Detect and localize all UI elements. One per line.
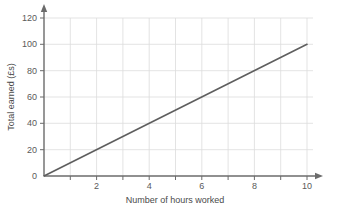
line-chart: 0 20 40 60 80 100 120 2 4 6 8 10 Number … (0, 0, 337, 211)
y-tick-label-100: 100 (22, 39, 37, 49)
chart-background (0, 0, 337, 211)
y-tick-label-20: 20 (27, 145, 37, 155)
y-tick-label-40: 40 (27, 118, 37, 128)
y-axis-title: Total earned (£s) (6, 63, 16, 131)
y-tick-label-80: 80 (27, 66, 37, 76)
chart-screenshot: 0 20 40 60 80 100 120 2 4 6 8 10 Number … (0, 0, 337, 211)
y-tick-label-120: 120 (22, 13, 37, 23)
x-tick-label-10: 10 (302, 181, 312, 191)
x-tick-label-2: 2 (94, 181, 99, 191)
x-tick-label-6: 6 (199, 181, 204, 191)
y-tick-label-0: 0 (32, 171, 37, 181)
y-tick-label-60: 60 (27, 92, 37, 102)
x-axis-title: Number of hours worked (126, 195, 225, 205)
x-tick-label-8: 8 (252, 181, 257, 191)
x-tick-label-4: 4 (147, 181, 152, 191)
